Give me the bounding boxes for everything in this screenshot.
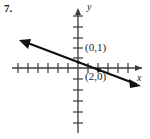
y-axis-label: y — [87, 2, 91, 12]
line-arrow-left-icon — [19, 39, 31, 49]
coordinate-plane-svg — [0, 0, 150, 139]
point-label-y-intercept: (0,1) — [85, 41, 106, 53]
point-label-x-intercept: (2,0) — [85, 70, 106, 82]
x-axis-arrow-icon — [135, 65, 142, 71]
x-axis-label: x — [137, 73, 141, 83]
y-axis-arrow-icon — [75, 8, 81, 15]
graph-figure: 7. — [0, 0, 150, 139]
point-0-1-marker — [76, 60, 79, 63]
